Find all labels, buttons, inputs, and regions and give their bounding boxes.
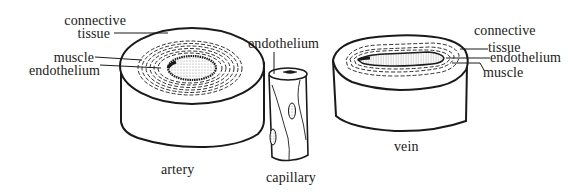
artery-drawing [95,28,264,147]
artery-caption: artery [161,163,194,177]
vein-endothelium-label: endothelium [490,51,561,65]
capillary-endothelium-label: endothelium [248,37,319,51]
artery-tissue-label: tissue [58,27,110,41]
vein-muscle-label: muscle [483,66,523,80]
capillary-drawing [269,52,308,161]
artery-endothelium-label: endothelium [18,64,100,78]
vein-connective-label: connective [474,24,536,38]
blood-vessel-diagram: connective tissue muscle endothelium art… [0,0,583,192]
capillary-caption: capillary [266,171,316,185]
vein-drawing [333,35,490,131]
vein-caption: vein [394,140,419,154]
